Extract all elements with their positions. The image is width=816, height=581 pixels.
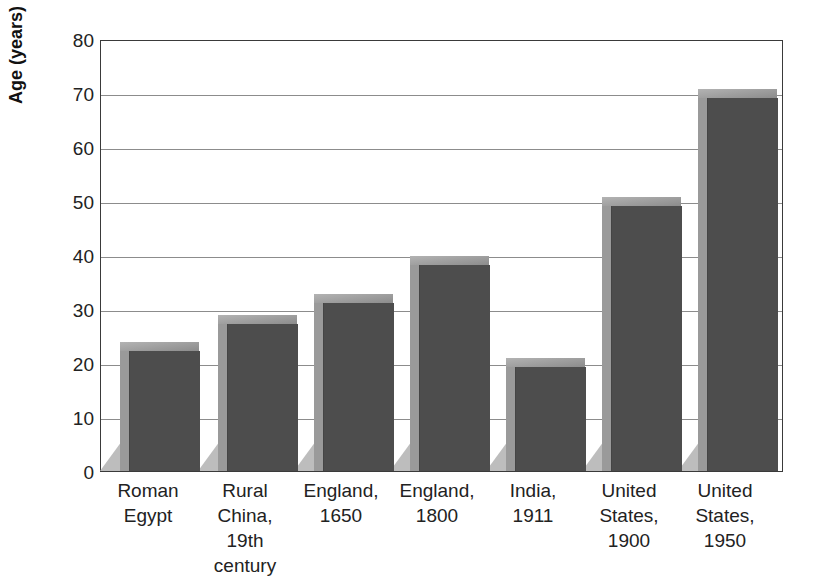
bar-front-face xyxy=(227,324,298,471)
bar-front-face xyxy=(323,303,394,471)
y-tick-label: 70 xyxy=(48,85,94,104)
y-tick-label: 50 xyxy=(48,193,94,212)
x-cat-label-roman-egypt: Roman Egypt xyxy=(96,478,200,528)
y-tick-label: 20 xyxy=(48,355,94,374)
bar-front-face xyxy=(129,351,200,471)
y-tick-label: 60 xyxy=(48,139,94,158)
x-cat-label-united-states-1900: United States, 1900 xyxy=(577,478,681,553)
x-cat-label-united-states-1950: United States, 1950 xyxy=(673,478,777,553)
x-cat-label-england-1650: England, 1650 xyxy=(289,478,393,528)
y-tick-label: 80 xyxy=(48,31,94,50)
gridline-60 xyxy=(101,149,782,150)
bar-side-face xyxy=(410,265,419,471)
bar-side-face xyxy=(120,351,129,471)
x-axis-category-labels: Roman Egypt Rural China, 19th century En… xyxy=(100,478,800,578)
y-axis-title: Age (years) xyxy=(6,0,36,180)
bar-side-face xyxy=(314,303,323,471)
x-cat-label-rural-china: Rural China, 19th century xyxy=(193,478,297,578)
bar-chart-figure: Age (years) 80 70 60 50 40 30 20 10 0 xyxy=(0,0,816,581)
y-tick-label: 10 xyxy=(48,409,94,428)
x-cat-label-england-1800: England, 1800 xyxy=(385,478,489,528)
gridline-70 xyxy=(101,95,782,96)
y-axis-tick-labels: 80 70 60 50 40 30 20 10 0 xyxy=(40,40,94,472)
bar-front-face xyxy=(611,206,682,471)
bar-front-face xyxy=(515,367,586,471)
bar-side-face xyxy=(602,206,611,471)
y-tick-label: 40 xyxy=(48,247,94,266)
plot-area xyxy=(100,40,783,472)
y-tick-label: 0 xyxy=(48,463,94,482)
bar-side-face xyxy=(506,367,515,471)
x-cat-label-india-1911: India, 1911 xyxy=(481,478,585,528)
bar-front-face xyxy=(707,98,778,471)
y-tick-label: 30 xyxy=(48,301,94,320)
bar-side-face xyxy=(218,324,227,471)
bar-front-face xyxy=(419,265,490,471)
bar-side-face xyxy=(698,98,707,471)
